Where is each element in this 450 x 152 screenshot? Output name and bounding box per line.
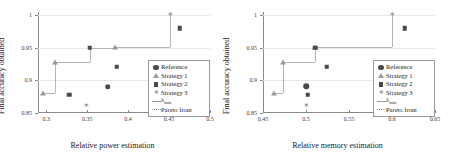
y-axis-tick-label: 0.85 — [12, 110, 32, 116]
legend-item-5[interactable]: λmin — [151, 97, 206, 106]
x-axis-title-right: Relative memory estimation — [292, 142, 383, 150]
legend-marker-star-icon: ✶ — [376, 90, 386, 96]
y-axis-tick — [260, 80, 263, 81]
marker-strategy-2 — [305, 93, 310, 98]
marker-strategy-2 — [67, 93, 72, 98]
legend-marker-circle-icon — [151, 65, 161, 71]
marker-strategy-1 — [40, 91, 46, 96]
marker-strategy-1 — [280, 59, 286, 64]
x-axis-tick-label: 0.3 — [42, 116, 50, 122]
panel-relative-memory: Final accuracy obtained Relative memory … — [225, 0, 450, 152]
pareto-front-segment — [115, 47, 170, 48]
gridline-horizontal — [38, 15, 210, 16]
x-axis-tick-label: 0.45 — [258, 116, 269, 122]
legend-item-label: λmin — [161, 97, 171, 106]
legend-item-label: Reference — [386, 64, 412, 71]
y-axis-tick-label: 1 — [237, 12, 257, 18]
legend-marker-lambda-min-line-icon — [151, 101, 161, 102]
legend-item-6[interactable]: Pareto front — [151, 106, 206, 115]
legend-marker-square-icon — [151, 82, 161, 87]
x-axis-tick — [435, 110, 436, 113]
marker-strategy-1 — [153, 73, 159, 78]
legend-marker-star-icon: ✶ — [151, 90, 161, 96]
y-axis-title-left: Final accuracy obtained — [0, 38, 6, 114]
legend-item-2[interactable]: Strategy 1 — [151, 72, 206, 81]
marker-strategy-2 — [154, 82, 159, 87]
marker-strategy-3: ✶ — [153, 90, 159, 96]
pareto-front-segment — [315, 47, 392, 48]
legend-item-1[interactable]: Reference — [376, 63, 431, 72]
marker-strategy-1 — [378, 73, 384, 78]
legend-item-label: λmin — [386, 97, 396, 106]
marker-strategy-2 — [403, 26, 408, 31]
legend-item-2[interactable]: Strategy 1 — [376, 72, 431, 81]
y-axis-line-left — [38, 12, 39, 113]
legend-item-1[interactable]: Reference — [151, 63, 206, 72]
marker-reference — [378, 65, 384, 71]
x-axis-tick — [46, 110, 47, 113]
legend-item-label: Pareto front — [161, 107, 192, 114]
marker-strategy-2 — [379, 82, 384, 87]
legend-item-label: Pareto front — [386, 107, 417, 114]
y-axis-tick-label: 0.95 — [12, 45, 32, 51]
marker-strategy-3: ✶ — [167, 12, 173, 18]
gridline-horizontal — [263, 15, 435, 16]
legend-item-6[interactable]: Pareto front — [376, 106, 431, 115]
y-axis-tick-label: 0.85 — [237, 110, 257, 116]
y-axis-tick — [35, 113, 38, 114]
legend-item-label: Reference — [161, 64, 187, 71]
marker-reference — [303, 84, 309, 90]
pareto-front-segment — [170, 15, 171, 46]
marker-strategy-2 — [324, 64, 329, 69]
marker-strategy-2 — [87, 46, 92, 51]
y-axis-tick — [35, 80, 38, 81]
x-axis-tick — [87, 110, 88, 113]
legend-marker-triangle-icon — [376, 73, 386, 78]
legend-marker-pareto-dotted-line-icon — [151, 109, 161, 110]
y-axis-tick — [35, 15, 38, 16]
y-axis-tick-label: 0.95 — [237, 45, 257, 51]
marker-strategy-1 — [112, 44, 118, 49]
y-axis-tick — [260, 113, 263, 114]
marker-strategy-3: ✶ — [303, 103, 309, 109]
pareto-front-segment — [283, 62, 284, 94]
marker-strategy-1 — [52, 59, 58, 64]
legend-item-4[interactable]: ✶Strategy 3 — [151, 89, 206, 98]
marker-strategy-1 — [271, 91, 277, 96]
legend-item-label: Strategy 2 — [386, 81, 413, 88]
x-axis-tick-label: 0.35 — [82, 116, 93, 122]
pareto-front-segment — [283, 62, 316, 63]
panel-relative-power: Final accuracy obtained Relative power e… — [0, 0, 225, 152]
x-axis-tick-label: 0.4 — [124, 116, 132, 122]
marker-strategy-2 — [114, 64, 119, 69]
x-axis-title-left: Relative power estimation — [71, 142, 155, 150]
marker-strategy-3: ✶ — [83, 103, 89, 109]
legend-marker-lambda-min-line-icon — [376, 101, 386, 102]
y-axis-tick — [35, 48, 38, 49]
gridline-horizontal — [263, 48, 435, 49]
legend-item-label: Strategy 1 — [161, 73, 188, 80]
legend-marker-pareto-dotted-line-icon — [376, 109, 386, 110]
legend-item-5[interactable]: λmin — [376, 97, 431, 106]
y-axis-line-right — [263, 12, 264, 113]
x-axis-tick — [263, 110, 264, 113]
marker-strategy-2 — [313, 46, 318, 51]
legend-item-4[interactable]: ✶Strategy 3 — [376, 89, 431, 98]
x-axis-tick — [349, 110, 350, 113]
marker-reference — [153, 65, 159, 71]
y-axis-tick — [260, 15, 263, 16]
y-axis-title-right: Final accuracy obtained — [223, 38, 231, 114]
legend-marker-circle-icon — [376, 65, 386, 71]
y-axis-tick-label: 0.9 — [237, 77, 257, 83]
x-axis-tick — [128, 110, 129, 113]
legend-item-label: Strategy 2 — [161, 81, 188, 88]
x-axis-tick-label: 0.55 — [344, 116, 355, 122]
gridline-horizontal — [38, 48, 210, 49]
figure-two-scatter-panels: Final accuracy obtained Relative power e… — [0, 0, 450, 152]
pareto-front-segment — [392, 15, 393, 46]
x-axis-tick-label: 0.5 — [302, 116, 310, 122]
legend-marker-triangle-icon — [151, 73, 161, 78]
legend-item-label: Strategy 1 — [386, 73, 413, 80]
marker-strategy-3: ✶ — [378, 90, 384, 96]
x-axis-tick — [306, 110, 307, 113]
